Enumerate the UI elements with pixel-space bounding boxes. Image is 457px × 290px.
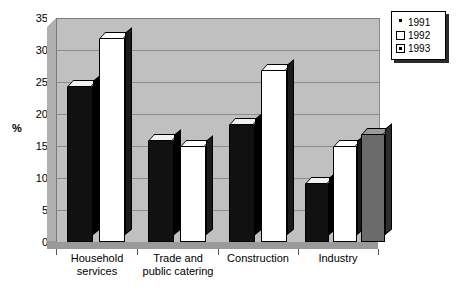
legend-label-1991: 1991 (408, 17, 430, 28)
legend-label-1992: 1992 (408, 30, 430, 41)
y-tick-label-25: 25 (18, 77, 48, 87)
legend-swatch-1991-icon (396, 18, 405, 27)
bar-trade-public-catering-1992 (180, 146, 206, 242)
bar-industry-1992 (333, 146, 357, 242)
x-category-label-household-services: Household services (56, 252, 138, 278)
bar-group-household-services (65, 19, 137, 242)
bar-side-face (125, 27, 132, 235)
y-tick-label-35: 35 (18, 13, 48, 23)
x-category-label-industry: Industry (298, 252, 378, 265)
x-category-line-1: Industry (298, 252, 378, 265)
axis-floor (47, 241, 378, 249)
bar-trade-public-catering-1991 (148, 140, 174, 242)
bar-side-face (385, 123, 392, 235)
y-tick-label-20: 20 (18, 109, 48, 119)
y-axis-title: % (12, 122, 22, 134)
bar-construction-1991 (229, 124, 255, 242)
bar-household-services-1991 (67, 86, 93, 242)
legend-swatch-1993-icon (396, 44, 405, 53)
x-category-line-1: Household (56, 252, 138, 265)
x-category-label-construction: Construction (218, 252, 298, 265)
x-category-line-1: Trade and (133, 252, 223, 265)
legend-item-1993: 1993 (396, 42, 441, 55)
bar-construction-1992 (261, 70, 287, 242)
plot-area (56, 18, 380, 242)
x-category-line-1: Construction (218, 252, 298, 265)
legend: 1991 1992 1993 (391, 11, 446, 60)
bar-group-trade-public-catering (146, 19, 218, 242)
legend-item-1992: 1992 (396, 29, 441, 42)
y-tick-label-5: 5 (18, 205, 48, 215)
x-category-line-2: services (56, 265, 138, 278)
y-tick-label-30: 30 (18, 45, 48, 55)
bar-side-face (206, 135, 213, 235)
y-tick-label-0: 0 (18, 237, 48, 247)
bar-chart-figure: % 35 30 25 20 15 10 5 0 (0, 0, 457, 290)
legend-label-1993: 1993 (408, 43, 430, 54)
x-tick-mark-4 (378, 249, 379, 255)
legend-item-1991: 1991 (396, 16, 441, 29)
bar-side-face (287, 59, 294, 235)
bar-industry-1993 (361, 134, 385, 242)
bar-household-services-1992 (99, 38, 125, 242)
y-tick-label-10: 10 (18, 173, 48, 183)
x-category-label-trade-public-catering: Trade and public catering (133, 252, 223, 278)
bar-group-industry (305, 19, 377, 242)
x-category-line-2: public catering (133, 265, 223, 278)
legend-swatch-1992-icon (396, 31, 405, 40)
bar-industry-1991 (305, 183, 329, 242)
bar-group-construction (227, 19, 299, 242)
axis-left-wall (47, 18, 56, 241)
y-tick-label-15: 15 (18, 141, 48, 151)
